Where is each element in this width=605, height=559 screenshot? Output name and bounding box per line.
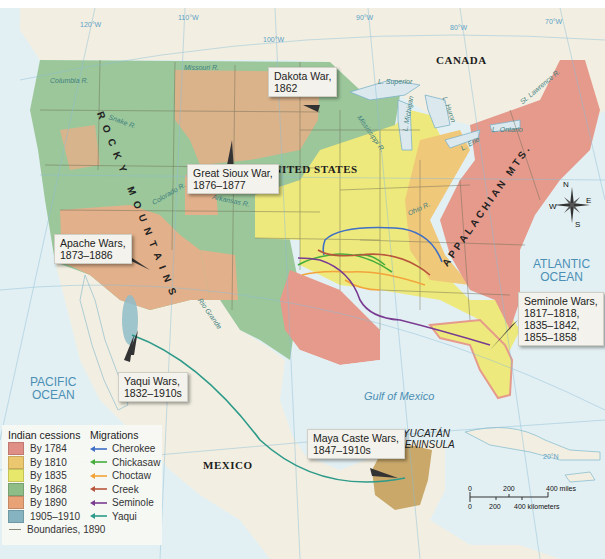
- legend-migrations: Migrations Cherokee Chickasaw Choctaw Cr…: [90, 429, 160, 523]
- legend-label: Creek: [112, 484, 139, 495]
- arrow-left-icon: [90, 485, 107, 493]
- callout-yaqui-wars: Yaqui Wars, 1832–1910s: [118, 372, 188, 402]
- compass-e: E: [586, 196, 591, 205]
- legend-label: By 1810: [30, 457, 67, 468]
- river-label-columbia: Columbia R.: [50, 77, 89, 84]
- legend-label: 1905–1910: [30, 511, 80, 522]
- legend-label: Yaqui: [112, 511, 137, 522]
- scale-km-0: 0: [468, 503, 472, 510]
- legend-row-choctaw: Choctaw: [90, 469, 160, 483]
- legend-row-seminole: Seminole: [90, 496, 160, 510]
- lake-label-ontario: L. Ontario: [492, 126, 523, 133]
- graticule-label-80w: 80°W: [450, 24, 467, 31]
- legend-label: By 1868: [30, 484, 67, 495]
- graticule-label-110w: 110°W: [178, 14, 199, 21]
- arrow-left-icon: [90, 472, 107, 480]
- scale-miles-0: 0: [468, 485, 472, 492]
- country-label-mexico: MEXICO: [203, 459, 252, 471]
- callout-dakota-war: Dakota War, 1862: [268, 67, 337, 97]
- graticule-label-70w: 70°W: [545, 18, 562, 25]
- compass-s: S: [575, 220, 580, 229]
- graticule-label-100w: 100°W: [263, 36, 284, 43]
- swatch-1810: [8, 456, 24, 469]
- legend-label: By 1890: [30, 497, 67, 508]
- legend-label: Choctaw: [112, 470, 151, 481]
- callout-seminole-wars: Seminole Wars, 1817–1818, 1835–1842, 185…: [518, 292, 604, 346]
- arrow-left-icon: [90, 458, 107, 466]
- legend-label: By 1784: [30, 443, 67, 454]
- arrow-left-icon: [90, 499, 107, 507]
- arrow-left-icon: [90, 445, 107, 453]
- legend-row-yaqui: Yaqui: [90, 510, 160, 524]
- map-legend: Indian cessions By 1784 By 1810 By 1835 …: [2, 425, 162, 545]
- legend-label: Chickasaw: [112, 457, 160, 468]
- boundary-line-icon: [9, 529, 21, 530]
- ocean-label-atlantic: ATLANTIC OCEAN: [533, 258, 590, 284]
- graticule-label-90w: 90°W: [356, 14, 373, 21]
- swatch-1835: [8, 469, 24, 482]
- scale-km-200: 200: [489, 503, 501, 510]
- scale-km-400: 400 kilometers: [514, 503, 560, 510]
- compass-w: W: [549, 202, 557, 211]
- ocean-label-pacific: PACIFIC OCEAN: [30, 376, 76, 402]
- graticule-label-20n: 20°N: [543, 453, 559, 460]
- graticule-label-120w: 120°W: [80, 21, 101, 28]
- legend-label: Cherokee: [112, 443, 155, 454]
- legend-label: Seminole: [112, 497, 154, 508]
- callout-great-sioux-war: Great Sioux War, 1876–1877: [187, 164, 279, 194]
- swatch-1784: [8, 442, 24, 455]
- scale-miles-200: 200: [503, 485, 515, 492]
- arrow-left-icon: [90, 512, 107, 520]
- callout-apache-wars: Apache Wars, 1873–1886: [54, 234, 132, 264]
- legend-label: By 1835: [30, 470, 67, 481]
- swatch-1905: [8, 510, 24, 523]
- country-label-united-states: UNITED STATES: [265, 163, 358, 175]
- swatch-1868: [8, 483, 24, 496]
- swatch-1890: [8, 496, 24, 509]
- scale-miles-400: 400 miles: [546, 485, 576, 492]
- legend-label: Boundaries, 1890: [27, 524, 105, 535]
- legend-row-creek: Creek: [90, 483, 160, 497]
- country-label-canada: CANADA: [436, 54, 487, 66]
- ocean-label-gulf: Gulf of Mexico: [364, 390, 434, 402]
- legend-row-chickasaw: Chickasaw: [90, 456, 160, 470]
- legend-migrations-title: Migrations: [90, 429, 160, 442]
- peninsula-label-yucatan: YUCATÁN PENINSULA: [398, 428, 455, 450]
- river-label-missouri: Missouri R.: [184, 64, 219, 71]
- legend-row-boundaries: Boundaries, 1890: [8, 523, 105, 537]
- lake-label-superior: L. Superior: [378, 78, 412, 85]
- callout-maya-caste-wars: Maya Caste Wars, 1847–1910s: [307, 429, 405, 459]
- legend-row-cherokee: Cherokee: [90, 442, 160, 456]
- compass-n: N: [563, 180, 569, 189]
